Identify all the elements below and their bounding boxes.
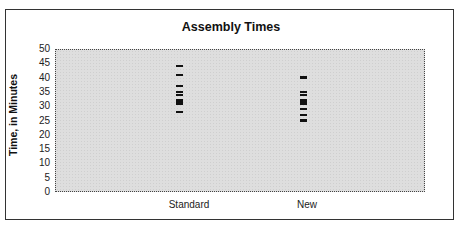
y-tick: 45 — [28, 58, 50, 68]
data-point — [300, 108, 307, 110]
data-point — [176, 111, 183, 113]
data-point — [176, 94, 183, 96]
y-tick: 30 — [28, 101, 50, 111]
x-tick-standard: Standard — [149, 199, 229, 210]
data-point — [176, 74, 183, 76]
data-point — [176, 65, 183, 67]
y-axis-label: Time, in Minutes — [7, 70, 19, 160]
y-tick: 35 — [28, 87, 50, 97]
plot-area — [55, 49, 425, 192]
y-tick: 50 — [28, 44, 50, 54]
x-tick-new: New — [267, 199, 347, 210]
data-point — [300, 76, 307, 78]
data-point — [176, 85, 183, 87]
chart-title: Assembly Times — [0, 20, 462, 34]
y-tick: 40 — [28, 73, 50, 83]
y-tick: 0 — [28, 187, 50, 197]
y-tick: 10 — [28, 158, 50, 168]
data-point — [176, 102, 183, 104]
data-point — [300, 114, 307, 116]
y-tick: 15 — [28, 144, 50, 154]
data-point — [300, 102, 307, 104]
y-tick: 20 — [28, 130, 50, 140]
data-point — [300, 94, 307, 96]
y-tick: 5 — [28, 173, 50, 183]
y-tick: 25 — [28, 116, 50, 126]
data-point — [300, 119, 307, 121]
